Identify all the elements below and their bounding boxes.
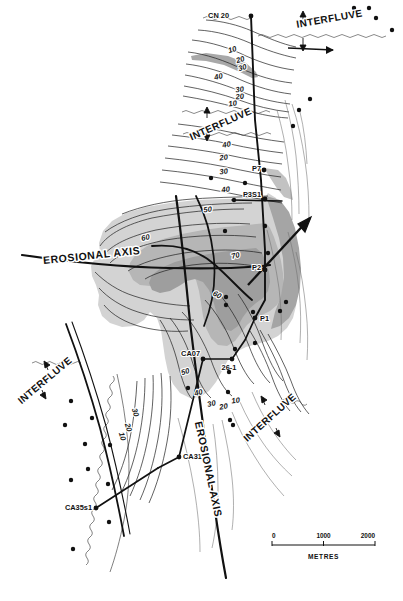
well-dot[interactable] xyxy=(262,168,267,173)
control-point-dot xyxy=(231,423,235,427)
control-point-dot xyxy=(297,108,301,112)
control-point-dot xyxy=(291,124,295,128)
control-point-dot xyxy=(106,482,110,486)
control-point-dot xyxy=(63,423,67,427)
well-label: P3S1 xyxy=(243,190,261,199)
control-point-dot xyxy=(107,520,111,524)
control-point-dot xyxy=(69,399,73,403)
well-label: CA31 xyxy=(183,452,202,461)
well-dot[interactable] xyxy=(201,357,206,362)
control-point-dot xyxy=(232,198,236,202)
well-label: P1 xyxy=(260,314,269,323)
well-dot[interactable] xyxy=(230,357,235,362)
control-point-dot xyxy=(224,303,228,307)
well-dot[interactable] xyxy=(249,14,254,19)
control-point-dot xyxy=(227,370,231,374)
control-point-dot xyxy=(86,467,90,471)
control-point-dot xyxy=(228,418,232,422)
control-point-dot xyxy=(233,347,237,351)
tie-line-p3s1-cross xyxy=(232,200,282,201)
control-point-dot xyxy=(108,443,112,447)
control-point-dot xyxy=(90,416,94,420)
scale-bar-tick-label: 2000 xyxy=(361,532,376,539)
control-point-dot xyxy=(224,295,228,299)
control-point-dot xyxy=(263,224,267,228)
control-point-dot xyxy=(71,547,75,551)
control-point-dot xyxy=(243,181,247,185)
control-point-dot xyxy=(251,310,255,314)
control-point-dot xyxy=(390,28,394,32)
well-label: P2 xyxy=(252,263,261,272)
scale-bar-tick-label: 1000 xyxy=(316,532,331,539)
scale-bar-unit-label: METRES xyxy=(308,553,339,560)
well-dot[interactable] xyxy=(94,506,99,511)
geological-contour-map: 1010202030304040303020201010404020203030… xyxy=(0,0,403,601)
well-label: CA07 xyxy=(181,349,200,358)
control-point-dot xyxy=(367,6,371,10)
control-point-dot xyxy=(209,176,213,180)
map-canvas: 1010202030304040303020201010404020203030… xyxy=(0,0,403,601)
control-point-dot xyxy=(284,300,288,304)
well-label: CN 20 xyxy=(208,11,229,20)
control-point-dot xyxy=(253,341,257,345)
control-point-dot xyxy=(223,229,227,233)
scale-bar-tick-label: 0 xyxy=(272,532,276,539)
control-point-dot xyxy=(226,390,230,394)
well-label: CA35s1 xyxy=(65,503,92,512)
well-dot[interactable] xyxy=(177,455,182,460)
well-dot[interactable] xyxy=(263,268,268,273)
well-dot[interactable] xyxy=(263,197,268,202)
control-point-dot xyxy=(278,309,282,313)
well-label: P7 xyxy=(252,164,261,173)
control-point-dot xyxy=(308,97,312,101)
control-point-dot xyxy=(69,478,73,482)
well-dot[interactable] xyxy=(253,316,258,321)
control-point-dot xyxy=(186,386,190,390)
control-point-dot xyxy=(266,251,270,255)
control-point-dot xyxy=(83,442,87,446)
control-point-dot xyxy=(374,16,378,20)
